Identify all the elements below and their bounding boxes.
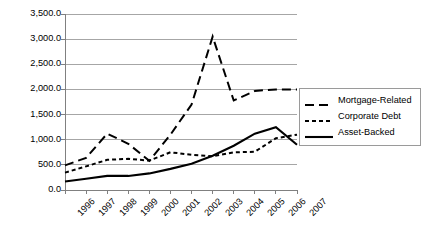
x-tick-label: 2002 bbox=[203, 197, 224, 218]
legend-item: Asset-Backed bbox=[304, 125, 417, 141]
legend-label: Asset-Backed bbox=[338, 128, 395, 137]
chart-page: 0.0500.01,000.01,500.02,000.02,500.03,00… bbox=[0, 0, 424, 230]
legend-swatch-long-dash bbox=[304, 96, 334, 106]
x-tick-label: 1998 bbox=[118, 197, 139, 218]
x-tick-label: 2005 bbox=[266, 197, 287, 218]
chart-plot-area: 0.0500.01,000.01,500.02,000.02,500.03,00… bbox=[0, 0, 310, 230]
x-tick-label: 2000 bbox=[160, 197, 181, 218]
x-tick-label: 2007 bbox=[308, 197, 329, 218]
legend-item: Corporate Debt bbox=[304, 109, 417, 125]
legend-swatch-solid bbox=[304, 128, 334, 138]
legend-item: Mortgage-Related bbox=[304, 93, 417, 109]
legend-label: Mortgage-Related bbox=[338, 96, 412, 105]
legend-label: Corporate Debt bbox=[338, 112, 401, 121]
x-tick-label: 1999 bbox=[139, 197, 160, 218]
x-tick-label: 2004 bbox=[245, 197, 266, 218]
x-tick-label: 1996 bbox=[76, 197, 97, 218]
x-tick-label: 2003 bbox=[224, 197, 245, 218]
chart-legend: Mortgage-RelatedCorporate DebtAsset-Back… bbox=[299, 88, 421, 146]
x-tick-label: 2001 bbox=[181, 197, 202, 218]
x-tick-label: 1997 bbox=[97, 197, 118, 218]
legend-swatch-short-dash bbox=[304, 112, 334, 122]
x-axis-tick-labels: 1996199719981999200020012002200320042005… bbox=[0, 0, 310, 230]
x-tick-label: 2006 bbox=[287, 197, 308, 218]
